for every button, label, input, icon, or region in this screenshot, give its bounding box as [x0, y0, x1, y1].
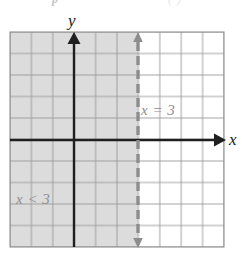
y-axis-label: y — [68, 12, 76, 29]
cropped-text-sliver: p ( ) — [0, 0, 242, 12]
inequality-graph-figure: p ( ) — [0, 0, 242, 260]
cropped-text-left: p — [52, 0, 59, 5]
solution-region-label: x < 3 — [16, 192, 50, 207]
cropped-text-right: ( ) — [168, 0, 182, 5]
x-axis-label: x — [229, 131, 237, 148]
coordinate-plane — [0, 0, 242, 260]
boundary-line-label: x = 3 — [141, 103, 175, 118]
